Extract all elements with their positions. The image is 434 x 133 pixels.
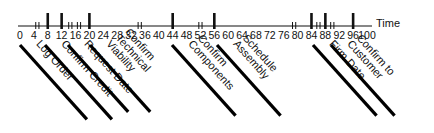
tick-label: 72 [264,29,276,41]
tick-label: 0 [17,29,23,41]
tick-label: 4 [31,29,37,41]
tick-label: 24 [97,29,109,41]
axis-title: Time [376,17,400,29]
tick-label: 48 [181,29,193,41]
tick-label: 16 [70,29,82,41]
order-process-timeline: Time 04812162024283236404448525660646872… [0,0,434,133]
tick-label: 88 [320,29,332,41]
tick-label: 44 [167,29,179,41]
tick-label: 84 [306,29,318,41]
tick-label: 60 [222,29,234,41]
tick-label: 76 [278,29,290,41]
tick-label: 80 [292,29,304,41]
tick-label: 40 [153,29,165,41]
